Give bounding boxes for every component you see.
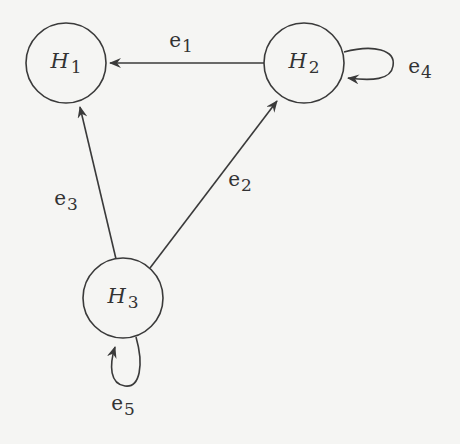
edge-e2-label: e2 xyxy=(228,169,252,194)
edge-e1-subscript: 1 xyxy=(182,36,193,56)
edge-e3-symbol: e xyxy=(54,186,66,210)
edge-e2-subscript: 2 xyxy=(241,175,252,195)
node-h3-symbol: H xyxy=(107,284,125,308)
node-h2-symbol: H xyxy=(288,49,306,73)
edge-e5-loop[interactable] xyxy=(112,337,140,386)
edge-e3-arrow[interactable] xyxy=(80,107,116,259)
edge-e4-subscript: 4 xyxy=(421,62,432,82)
edge-e3-subscript: 3 xyxy=(67,194,78,214)
node-h3-label: H3 xyxy=(107,286,138,311)
node-h2-label: H2 xyxy=(288,51,319,76)
edge-e2-arrow[interactable] xyxy=(150,101,277,268)
node-h1-symbol: H xyxy=(50,49,68,73)
node-h1-subscript: 1 xyxy=(71,57,82,77)
edge-e5-symbol: e xyxy=(111,391,123,415)
node-h3-subscript: 3 xyxy=(128,292,139,312)
edge-e5-label: e5 xyxy=(111,393,135,418)
edge-e1-label: e1 xyxy=(169,30,193,55)
node-h2-subscript: 2 xyxy=(309,57,320,77)
edge-e1-symbol: e xyxy=(169,28,181,52)
edge-e4-label: e4 xyxy=(408,56,432,81)
edge-e3-label: e3 xyxy=(54,188,78,213)
edge-e5-subscript: 5 xyxy=(124,399,135,419)
edge-e4-symbol: e xyxy=(408,54,420,78)
edge-e2-symbol: e xyxy=(228,167,240,191)
edge-e4-loop[interactable] xyxy=(344,48,393,79)
node-h1-label: H1 xyxy=(50,51,81,76)
